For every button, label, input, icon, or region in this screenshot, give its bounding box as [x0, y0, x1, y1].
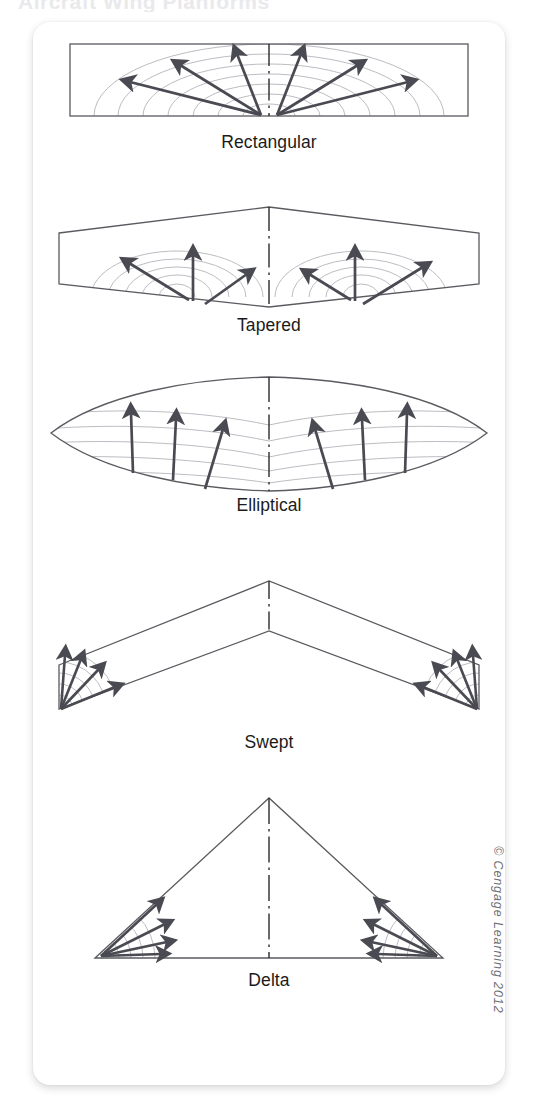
panel-swept: Swept [33, 559, 505, 734]
figure-card: Rectangular [33, 22, 505, 1085]
caption-rectangular: Rectangular [33, 132, 505, 153]
caption-swept: Swept [33, 732, 505, 753]
panel-rectangular: Rectangular [33, 36, 505, 132]
caption-delta: Delta [33, 970, 505, 991]
copyright-wrapper: © Cengage Learning 2012 [505, 846, 545, 1096]
panel-tapered: Tapered [33, 185, 505, 315]
caption-tapered: Tapered [33, 315, 505, 336]
copyright-notice: © Cengage Learning 2012 [491, 846, 505, 1086]
cut-off-heading: Aircraft Wing Planforms [18, 0, 348, 12]
caption-elliptical: Elliptical [33, 495, 505, 516]
panel-elliptical: Elliptical [33, 367, 505, 495]
panel-delta: Delta [33, 782, 505, 972]
